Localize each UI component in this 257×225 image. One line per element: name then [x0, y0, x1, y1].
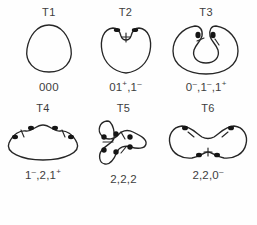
curve-path-t3 [173, 26, 238, 74]
panel-row-bottom: T4 1–,2,1+ T5 [0, 94, 257, 186]
label-sup: – [137, 79, 142, 88]
tick-mark [222, 132, 228, 137]
label-part: 000 [39, 81, 59, 93]
curve-diagram-t1 [15, 20, 83, 78]
label-part: 01 [109, 81, 122, 93]
node-point [196, 153, 202, 158]
panel-t4: T4 1–,2,1+ [4, 102, 82, 186]
curve-diagram-t3 [168, 20, 244, 78]
tick-mark [215, 39, 219, 45]
label-part: ,2,1 [36, 169, 56, 181]
panel-label-t2: 01+,1– [109, 80, 142, 94]
curve-diagram-t2 [92, 20, 160, 78]
node-point [182, 126, 188, 131]
panel-t2: T2 01+,1– [88, 6, 164, 94]
node-point [113, 131, 118, 136]
label-sup: – [219, 167, 224, 176]
tick-mark [121, 132, 125, 139]
panel-label-t3: 0–,1–,1+ [186, 80, 227, 94]
label-part: 1 [25, 169, 32, 181]
panel-label-t1: 000 [39, 80, 59, 94]
curve-diagram-t6 [166, 116, 250, 166]
node-point [113, 28, 119, 32]
panel-row-top: T1 000 T2 01+,1– [0, 0, 257, 94]
node-point [196, 32, 201, 39]
node-point [131, 28, 137, 32]
node-point [12, 135, 18, 139]
node-point [127, 134, 132, 139]
panel-label-t4: 1–,2,1+ [25, 168, 61, 182]
node-point [52, 126, 58, 130]
node-point [113, 149, 118, 154]
panel-label-t5: 2,2,2 [110, 172, 137, 186]
node-point [214, 153, 220, 158]
node-point [211, 32, 216, 39]
label-part: ,1 [212, 81, 222, 93]
label-part: ,1 [197, 81, 207, 93]
curve-diagram-t4 [3, 116, 83, 166]
panel-t1: T1 000 [10, 6, 88, 94]
node-point [101, 147, 106, 152]
node-point [228, 126, 234, 131]
panel-title-t3: T3 [199, 6, 213, 19]
tick-mark [188, 132, 194, 137]
panel-title-t4: T4 [36, 102, 50, 115]
panel-label-t6: 2,2,0– [192, 168, 223, 182]
panel-title-t6: T6 [201, 102, 215, 115]
panel-t6: T6 2,2,0– [165, 102, 251, 186]
curve-path-t4 [8, 125, 77, 160]
label-part: 2,2,0 [192, 169, 219, 181]
panel-title-t2: T2 [119, 6, 133, 19]
curve-diagram-t5 [89, 116, 159, 170]
label-part: ,1 [127, 81, 137, 93]
node-point [101, 134, 106, 139]
curve-figure: T1 000 T2 01+,1– [0, 0, 257, 225]
node-point [68, 135, 74, 139]
curve-path-t1 [27, 25, 72, 72]
label-sup: + [56, 167, 61, 176]
node-point [28, 126, 34, 130]
label-part: 2,2,2 [110, 173, 137, 185]
panel-t3: T3 0–,1–,1+ [163, 6, 249, 94]
panel-title-t1: T1 [42, 6, 56, 19]
label-sup: + [222, 79, 227, 88]
panel-t5: T5 2,2,2 [86, 102, 162, 186]
panel-title-t5: T5 [117, 102, 131, 115]
node-point [127, 144, 132, 149]
